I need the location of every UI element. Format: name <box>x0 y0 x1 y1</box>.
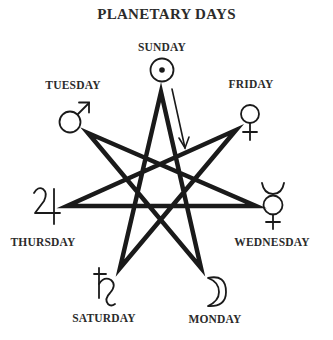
mars-icon <box>60 103 90 133</box>
label-saturday: SATURDAY <box>72 312 136 324</box>
label-sunday: SUNDAY <box>138 41 186 53</box>
label-monday: MONDAY <box>188 313 241 325</box>
label-wednesday: WEDNESDAY <box>234 236 310 248</box>
jupiter-icon <box>34 188 60 224</box>
sun-icon <box>151 59 174 82</box>
label-friday: FRIDAY <box>229 78 274 90</box>
moon-icon <box>208 277 226 306</box>
label-tuesday: TUESDAY <box>45 79 100 91</box>
saturn-icon <box>94 268 115 306</box>
heptagram-star <box>67 92 256 268</box>
label-thursday: THURSDAY <box>10 236 75 248</box>
direction-arrow <box>172 89 189 148</box>
mercury-icon <box>262 183 284 229</box>
venus-icon <box>241 105 259 140</box>
